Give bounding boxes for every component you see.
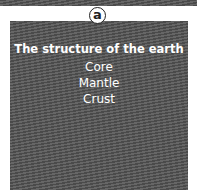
label-badge-a: a xyxy=(89,7,106,24)
panel-title: The structure of the earth xyxy=(10,42,188,56)
list-item-core: Core xyxy=(10,60,188,74)
top-texture-strip xyxy=(0,0,197,6)
content-panel: The structure of the earth Core Mantle C… xyxy=(10,21,188,190)
list-item-mantle: Mantle xyxy=(10,76,188,90)
list-item-crust: Crust xyxy=(10,92,188,106)
